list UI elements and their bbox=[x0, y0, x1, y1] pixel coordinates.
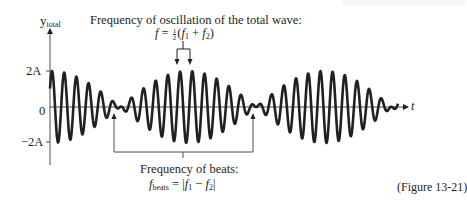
plus: + bbox=[189, 26, 202, 40]
beat-frequency-title: Frequency of beats: bbox=[140, 163, 239, 176]
tick-label-zero: 0 bbox=[39, 105, 45, 118]
one-half-fraction: 12 bbox=[173, 28, 177, 41]
beat-frequency-formula: fbeats = |f1 − f2| bbox=[149, 178, 216, 192]
abs-close: | bbox=[213, 177, 216, 191]
minus: − bbox=[192, 177, 205, 191]
figure-caption: (Figure 13-21) bbox=[397, 181, 467, 193]
fbeats-sub: beats bbox=[152, 183, 168, 192]
carrier-frequency-title: Frequency of oscillation of the total wa… bbox=[90, 14, 302, 27]
t-axis-label: t bbox=[411, 100, 414, 113]
tick-label-neg-2A: −2A bbox=[21, 136, 43, 149]
carrier-frequency-bracket bbox=[175, 41, 193, 65]
y-axis-label: ytotal bbox=[40, 14, 61, 29]
formula-eq: = bbox=[158, 26, 171, 40]
frac-den: 2 bbox=[173, 35, 177, 41]
y-axis-label-sub: total bbox=[47, 20, 61, 29]
paren-close: ) bbox=[210, 26, 214, 40]
tick-label-2A: 2A bbox=[26, 65, 41, 78]
carrier-frequency-formula: f = 12(f1 + f2) bbox=[155, 27, 214, 41]
eq-abs-open: = | bbox=[169, 177, 185, 191]
